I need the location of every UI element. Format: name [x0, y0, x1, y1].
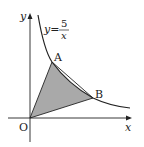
diagram-canvas: y x O A B y= 5 x — [0, 0, 144, 147]
x-axis-label: x — [125, 121, 132, 134]
y-axis-label: y — [19, 10, 27, 23]
equation-numerator: 5 — [61, 18, 67, 29]
equation-denominator: x — [61, 30, 67, 41]
point-A-label: A — [53, 51, 63, 64]
x-axis-arrow-icon — [126, 116, 132, 121]
origin-label: O — [19, 121, 28, 134]
equation-lhs: y= — [43, 23, 59, 36]
y-axis-arrow-icon — [28, 13, 33, 19]
point-B-label: B — [95, 88, 103, 101]
